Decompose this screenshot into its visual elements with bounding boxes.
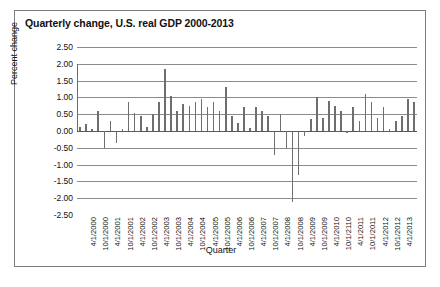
bar [255, 107, 257, 131]
x-axis-tick-label: 4/1/2006 [235, 217, 244, 247]
bar [146, 127, 148, 131]
x-axis-tick-label: 4/1/2007 [259, 217, 268, 247]
figure-frame: Quarterly change, U.S. real GDP 2000-201… [14, 10, 426, 267]
bar [304, 131, 306, 136]
bar [201, 99, 203, 131]
bar [280, 114, 282, 131]
y-axis-tick-label: -2.00 [54, 193, 73, 203]
gridline [77, 131, 417, 132]
gridline [77, 165, 417, 166]
bar [231, 116, 233, 131]
bar [213, 102, 215, 131]
bar [316, 97, 318, 131]
y-axis-spine [77, 64, 78, 131]
bar [79, 127, 81, 131]
bar [225, 87, 227, 131]
bar [110, 121, 112, 131]
bar [401, 116, 403, 131]
bar [340, 111, 342, 131]
bar [298, 131, 300, 175]
bar [176, 111, 178, 131]
y-axis-tick-label: -0.50 [54, 143, 73, 153]
bar [267, 116, 269, 131]
bar [237, 123, 239, 131]
bar [182, 104, 184, 131]
bar [140, 116, 142, 131]
bar [274, 131, 276, 155]
y-axis-title: Percent change [9, 22, 19, 85]
bar [407, 99, 409, 131]
x-axis-tick-label: 4/1/2011 [356, 217, 365, 246]
x-axis-tick-label: 4/1/2004 [186, 217, 195, 247]
bar [189, 106, 191, 131]
y-axis-tick-label: 0.50 [56, 109, 73, 119]
chart-title: Quarterly change, U.S. real GDP 2000-201… [25, 17, 234, 29]
bar [164, 69, 166, 131]
y-axis-tick-label: -2.50 [54, 210, 73, 220]
gridline [77, 81, 417, 82]
plot-area [77, 47, 417, 215]
bar [389, 129, 391, 131]
x-axis-tick-label: 4/1/2002 [138, 217, 147, 247]
plot-wrap [77, 47, 417, 215]
x-axis-tick-label: 4/1/2013 [405, 217, 414, 247]
y-axis-tick-label: 1.50 [56, 76, 73, 86]
bar [365, 94, 367, 131]
bar [261, 111, 263, 131]
bar [152, 114, 154, 131]
bar [219, 111, 221, 131]
gridline [77, 148, 417, 149]
bar [383, 107, 385, 131]
x-axis-tick-label: 4/1/2012 [381, 217, 390, 247]
bar [310, 119, 312, 131]
gridline [77, 198, 417, 199]
bar [286, 131, 288, 148]
bar [413, 102, 415, 131]
bar [249, 128, 251, 131]
x-axis-tick-label: 4/1/2005 [211, 217, 220, 247]
y-axis-tick-labels: 2.502.001.501.000.500.00-0.50-1.00-1.50-… [35, 47, 73, 215]
x-axis-tick-label: 4/1/2003 [162, 217, 171, 247]
gridline [77, 181, 417, 182]
bar [170, 96, 172, 131]
bar [195, 102, 197, 131]
bar [322, 118, 324, 131]
bar [334, 106, 336, 131]
bar [377, 118, 379, 131]
y-axis-tick-label: 2.00 [56, 59, 73, 69]
bar [158, 102, 160, 131]
bar [85, 124, 87, 131]
bar [134, 113, 136, 131]
bar [122, 129, 124, 131]
bar [292, 131, 294, 202]
bar [371, 102, 373, 131]
bar [328, 101, 330, 131]
bar [395, 121, 397, 131]
bar [352, 107, 354, 131]
gridline [77, 64, 417, 65]
y-axis-tick-label: -1.00 [54, 160, 73, 170]
x-axis-tick-label: 4/1/2000 [89, 217, 98, 247]
bar [116, 131, 118, 143]
bar [207, 107, 209, 131]
bar [104, 131, 106, 148]
y-axis-tick-label: -1.50 [54, 176, 73, 186]
x-axis-title: Quarter [15, 245, 427, 255]
bar [359, 121, 361, 131]
bar [243, 107, 245, 131]
x-axis-tick-label: 4/1/2009 [308, 217, 317, 247]
y-axis-tick-label: 2.50 [56, 42, 73, 52]
y-axis-tick-label: 0.00 [56, 126, 73, 136]
x-axis-tick-label: 4/1/2008 [283, 217, 292, 247]
bar [346, 131, 348, 133]
x-axis-tick-label: 4/1/2010 [332, 217, 341, 247]
bar [128, 102, 130, 131]
bar [91, 129, 93, 131]
x-axis-tick-label: 4/1/2001 [113, 217, 122, 247]
bar [97, 111, 99, 131]
y-axis-tick-label: 1.00 [56, 92, 73, 102]
gridline [77, 47, 417, 48]
